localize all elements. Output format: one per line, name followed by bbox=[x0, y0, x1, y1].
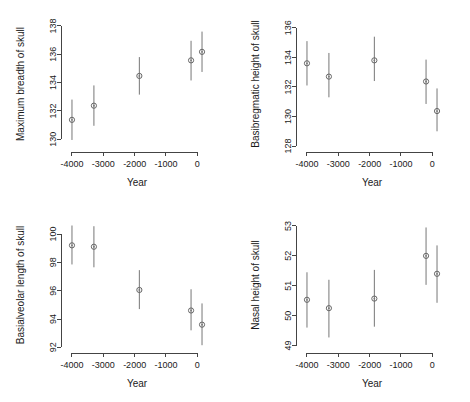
x-axis-tick-label: 0 bbox=[430, 360, 435, 370]
data-point-center bbox=[425, 255, 427, 257]
panel-bottom-left: 92949698100-4000-3000-2000-10000YearBasi… bbox=[0, 201, 235, 402]
y-axis-tick-label: 49 bbox=[283, 341, 293, 351]
plot-area: 130132134136138-4000-3000-2000-10000Year… bbox=[0, 0, 235, 201]
data-point-center bbox=[190, 59, 192, 61]
y-axis-tick-label: 136 bbox=[283, 20, 293, 35]
x-axis-tick-label: 0 bbox=[430, 159, 435, 169]
data-point-group bbox=[434, 245, 439, 302]
x-axis-tick-label: -1000 bbox=[154, 360, 177, 370]
plot-area: 92949698100-4000-3000-2000-10000YearBasi… bbox=[0, 201, 235, 402]
data-point-group bbox=[69, 226, 74, 265]
figure-panel-grid: 130132134136138-4000-3000-2000-10000Year… bbox=[0, 0, 470, 402]
plot-area: 4950515253-4000-3000-2000-10000YearNasal… bbox=[235, 201, 470, 402]
x-axis-tick-label: -3000 bbox=[327, 360, 350, 370]
x-axis-tick-label: -3000 bbox=[327, 159, 350, 169]
y-axis-tick-label: 53 bbox=[283, 221, 293, 231]
y-axis-tick-label: 132 bbox=[283, 79, 293, 94]
data-point-center bbox=[138, 75, 140, 77]
data-point-center bbox=[190, 310, 192, 312]
y-axis-title: Maximum breadth of skull bbox=[15, 27, 26, 141]
data-point-group bbox=[372, 270, 377, 327]
data-point-center bbox=[71, 244, 73, 246]
data-point-center bbox=[436, 110, 438, 112]
x-axis-title: Year bbox=[362, 177, 383, 188]
data-point-group bbox=[137, 57, 142, 95]
data-point-center bbox=[93, 246, 95, 248]
y-axis-title: Basialveolar length of skull bbox=[15, 226, 26, 344]
data-point-group bbox=[304, 272, 309, 327]
x-axis-tick-label: -3000 bbox=[92, 159, 115, 169]
data-point-group bbox=[199, 303, 204, 345]
x-axis-tick-label: -4000 bbox=[60, 360, 83, 370]
y-axis-tick-label: 130 bbox=[283, 109, 293, 124]
panel-top-right: 128130132134136-4000-3000-2000-10000Year… bbox=[235, 0, 470, 201]
data-point-center bbox=[71, 119, 73, 121]
x-axis-tick-label: -4000 bbox=[295, 159, 318, 169]
panel-bottom-right: 4950515253-4000-3000-2000-10000YearNasal… bbox=[235, 201, 470, 402]
x-axis-tick-label: -2000 bbox=[358, 360, 381, 370]
y-axis-tick-label: 92 bbox=[48, 342, 58, 352]
data-point-group bbox=[304, 41, 309, 85]
y-axis-tick-label: 132 bbox=[48, 103, 58, 118]
x-axis-tick-label: 0 bbox=[195, 360, 200, 370]
data-point-center bbox=[425, 81, 427, 83]
y-axis-tick-label: 130 bbox=[48, 132, 58, 147]
y-axis-tick-label: 134 bbox=[283, 50, 293, 65]
y-axis-tick-label: 128 bbox=[283, 139, 293, 154]
data-point-group bbox=[91, 85, 96, 125]
x-axis-tick-label: -2000 bbox=[123, 360, 146, 370]
x-axis-title: Year bbox=[127, 177, 148, 188]
data-point-group bbox=[91, 226, 96, 267]
data-point-group bbox=[199, 32, 204, 72]
data-point-center bbox=[93, 105, 95, 107]
plot-area: 128130132134136-4000-3000-2000-10000Year… bbox=[235, 0, 470, 201]
x-axis-tick-label: -4000 bbox=[60, 159, 83, 169]
x-axis-tick-label: -3000 bbox=[92, 360, 115, 370]
x-axis-tick-label: -2000 bbox=[123, 159, 146, 169]
x-axis-title: Year bbox=[127, 378, 148, 389]
data-point-center bbox=[138, 289, 140, 291]
y-axis-tick-label: 136 bbox=[48, 47, 58, 62]
y-axis-title: Basibregmatic height of skull bbox=[250, 20, 261, 147]
data-point-group bbox=[69, 100, 74, 140]
x-axis-tick-label: -1000 bbox=[154, 159, 177, 169]
x-axis-tick-label: -4000 bbox=[295, 360, 318, 370]
data-point-group bbox=[137, 270, 142, 309]
y-axis-tick-label: 98 bbox=[48, 257, 58, 267]
panel-top-left: 130132134136138-4000-3000-2000-10000Year… bbox=[0, 0, 235, 201]
y-axis-tick-label: 138 bbox=[48, 18, 58, 33]
x-axis-tick-label: -1000 bbox=[389, 159, 412, 169]
data-point-center bbox=[373, 298, 375, 300]
data-point-group bbox=[434, 88, 439, 131]
y-axis-tick-label: 50 bbox=[283, 311, 293, 321]
data-point-group bbox=[372, 37, 377, 81]
y-axis-title: Nasal height of skull bbox=[250, 240, 261, 330]
y-axis-tick-label: 100 bbox=[48, 226, 58, 241]
x-axis-tick-label: -1000 bbox=[389, 360, 412, 370]
data-point-group bbox=[423, 60, 428, 104]
x-axis-tick-label: -2000 bbox=[358, 159, 381, 169]
data-point-center bbox=[201, 324, 203, 326]
y-axis-tick-label: 52 bbox=[283, 251, 293, 261]
y-axis-tick-label: 94 bbox=[48, 314, 58, 324]
x-axis-tick-label: 0 bbox=[195, 159, 200, 169]
y-axis-tick-label: 51 bbox=[283, 281, 293, 291]
data-point-group bbox=[188, 289, 193, 330]
data-point-center bbox=[306, 62, 308, 64]
data-point-center bbox=[328, 76, 330, 78]
data-point-center bbox=[201, 51, 203, 53]
data-point-center bbox=[436, 273, 438, 275]
data-point-group bbox=[423, 227, 428, 284]
data-point-center bbox=[306, 299, 308, 301]
data-point-center bbox=[373, 59, 375, 61]
y-axis-tick-label: 134 bbox=[48, 75, 58, 90]
data-point-group bbox=[326, 280, 331, 338]
y-axis-tick-label: 96 bbox=[48, 286, 58, 296]
data-point-group bbox=[326, 53, 331, 97]
data-point-center bbox=[328, 307, 330, 309]
x-axis-title: Year bbox=[362, 378, 383, 389]
data-point-group bbox=[188, 41, 193, 81]
